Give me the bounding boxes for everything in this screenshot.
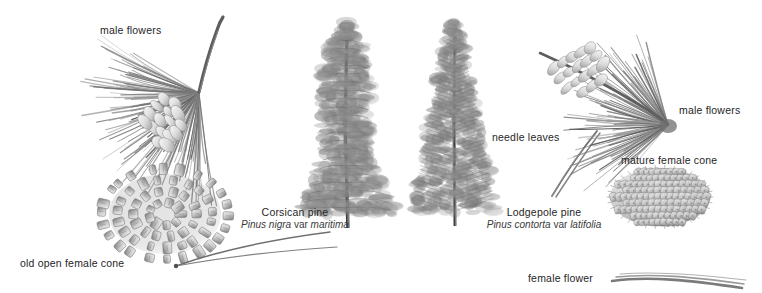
foliage-clump: [387, 211, 397, 217]
species-rank: var: [553, 219, 567, 230]
label-old-open-female-cone: old open female cone: [20, 257, 124, 270]
label-mature-female-cone: mature female cone: [621, 154, 717, 167]
species-common-name: Corsican pine: [230, 206, 360, 218]
species-variety: latifolia: [570, 219, 601, 230]
species-variety: maritima: [311, 219, 349, 230]
foliage-clump: [358, 61, 373, 69]
plate-background: [0, 0, 762, 293]
label-needle-leaves: needle leaves: [492, 131, 559, 144]
label-female-flower: female flower: [528, 272, 593, 285]
foliage-clump: [350, 186, 364, 198]
species-common-name: Lodgepole pine: [478, 206, 610, 218]
species-rank: var: [294, 219, 308, 230]
label-male-flowers-left: male flowers: [100, 24, 161, 37]
shoot-bud: [659, 119, 677, 133]
species-scientific-name: Pinus contorta var latifolia: [478, 219, 610, 230]
foliage-clump: [336, 103, 345, 109]
foliage-clump: [450, 207, 461, 219]
species-binomial: Pinus contorta: [487, 219, 551, 230]
label-male-flowers-right: male flowers: [679, 104, 740, 117]
foliage-clump: [364, 207, 387, 218]
species-scientific-name: Pinus nigra var maritima: [230, 219, 360, 230]
botanical-plate: [0, 0, 762, 293]
caption-lodgepole-pine: Lodgepole pine Pinus contorta var latifo…: [478, 206, 610, 230]
foliage-clump: [413, 207, 433, 216]
caption-corsican-pine: Corsican pine Pinus nigra var maritima: [230, 206, 360, 230]
foliage-clump: [319, 128, 334, 134]
foliage-clump: [326, 139, 343, 145]
species-binomial: Pinus nigra: [241, 219, 291, 230]
